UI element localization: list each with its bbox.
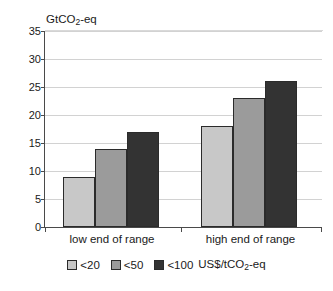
y-tickmark-5 [41, 199, 45, 200]
legend-units-post: -eq [249, 258, 266, 270]
y-tickmark-35 [41, 31, 45, 32]
legend-item-lt100[interactable]: <100 US$/tCO2-eq [154, 258, 265, 272]
legend-swatch-icon-lt50 [111, 260, 121, 270]
legend-label-lt20: <20 [80, 259, 100, 272]
x-tickmark-end [321, 227, 322, 232]
y-tick-label-0: 0 [35, 222, 41, 233]
x-category-label-low: low end of range [44, 232, 180, 246]
y-tickmark-30 [41, 59, 45, 60]
y-tick-label-10: 10 [29, 166, 41, 177]
bar-high-lt50[interactable] [233, 98, 265, 227]
legend-swatch-icon-lt100 [154, 260, 164, 270]
legend-units-sub: 2 [244, 262, 249, 272]
y-tickmark-20 [41, 115, 45, 116]
y-tick-label-5: 5 [35, 194, 41, 205]
y-tick-label-15: 15 [29, 138, 41, 149]
bar-low-lt20[interactable] [63, 177, 95, 227]
y-tickmark-25 [41, 87, 45, 88]
bar-high-lt100[interactable] [265, 81, 297, 227]
bar-chart-figure: GtCO2-eq 35 30 25 20 15 10 5 0 [0, 0, 333, 291]
legend-item-lt20[interactable]: <20 [67, 259, 100, 272]
gridline-30 [45, 59, 322, 60]
bar-high-lt20[interactable] [201, 126, 233, 227]
y-axis-title-pre: GtCO [46, 13, 75, 25]
y-tick-label-25: 25 [29, 82, 41, 93]
legend-item-lt50[interactable]: <50 [111, 259, 144, 272]
x-category-label-high: high end of range [180, 232, 321, 246]
y-tickmark-10 [41, 171, 45, 172]
chart-legend: <20 <50 <100 US$/tCO2-eq [0, 258, 333, 272]
y-axis-title-post: -eq [80, 13, 97, 25]
y-axis-title: GtCO2-eq [46, 13, 97, 27]
legend-label-lt50: <50 [124, 259, 144, 272]
y-tick-label-30: 30 [29, 54, 41, 65]
gridline-35 [45, 31, 322, 32]
legend-units-pre: US$/tCO [198, 258, 244, 270]
y-tick-label-20: 20 [29, 110, 41, 121]
plot-area: 35 30 25 20 15 10 5 0 [44, 31, 322, 228]
y-tick-label-35: 35 [29, 26, 41, 37]
y-tickmark-15 [41, 143, 45, 144]
y-axis-title-sub: 2 [75, 17, 80, 27]
legend-units-label: US$/tCO2-eq [198, 258, 265, 272]
legend-label-lt100: <100 [167, 259, 193, 272]
legend-swatch-icon-lt20 [67, 260, 77, 270]
bar-low-lt50[interactable] [95, 149, 127, 227]
bar-low-lt100[interactable] [127, 132, 159, 227]
